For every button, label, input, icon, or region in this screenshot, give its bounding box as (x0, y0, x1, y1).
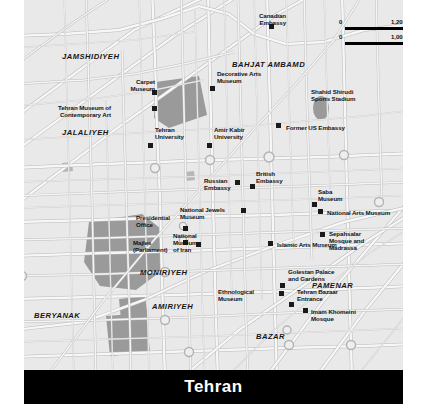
poi-label: National Museum of Iran (173, 232, 198, 254)
poi-marker[interactable] (250, 184, 255, 189)
scale-row-yards: 0 1,200 yards (339, 20, 403, 35)
poi-label: Amir Kabir University (214, 126, 245, 140)
poi-label: Canadian Embassy (200, 12, 286, 26)
poi-label: Tehran Bazaar Entrance (297, 288, 338, 302)
poi-marker[interactable] (312, 202, 317, 207)
scale-line-meters (345, 42, 403, 45)
poi-marker[interactable] (207, 143, 212, 148)
poi-label: Majles (Parliament) (133, 239, 168, 253)
poi-label: Ethnological Museum (218, 288, 254, 302)
poi-marker[interactable] (280, 283, 285, 288)
district-label: PAMENAR (312, 281, 353, 290)
poi-marker[interactable] (268, 241, 273, 246)
map-page: .rd { fill:none; stroke:#b9b9b9; stroke-… (0, 0, 429, 418)
scale-bar: 0 1,200 yards 0 1,000 meters (339, 20, 403, 54)
poi-marker[interactable] (152, 106, 157, 111)
poi-label: Former US Embassy (286, 124, 345, 131)
poi-marker[interactable] (279, 291, 284, 296)
map-labels-layer: Canadian EmbassyDecorative Arts MuseumCa… (24, 0, 403, 370)
poi-marker[interactable] (289, 302, 294, 307)
scale-zero-meters: 0 (339, 34, 342, 40)
district-label: JALALIYEH (62, 128, 109, 137)
poi-marker[interactable] (148, 143, 153, 148)
poi-label: Shahid Shirudi Sports Stadium (311, 88, 355, 102)
poi-marker[interactable] (183, 226, 188, 231)
poi-label: Decorative Arts Museum (217, 70, 261, 84)
scale-label-yards: 1,200 yards (391, 19, 403, 25)
poi-marker[interactable] (320, 232, 325, 237)
poi-label: National Arts Museum (327, 209, 390, 216)
poi-marker[interactable] (276, 123, 281, 128)
poi-label: Tehran Museum of Contemporary Art (25, 104, 111, 118)
poi-label: Presidential Office (136, 214, 170, 228)
poi-marker[interactable] (210, 86, 215, 91)
map-title-bar: Tehran (24, 370, 403, 404)
poi-label: Imam Khomeini Mosque (311, 308, 356, 322)
district-label: BERYANAK (34, 311, 80, 320)
district-label: AMIRIYEH (152, 302, 193, 311)
poi-label: British Embassy (256, 170, 282, 184)
district-label: BAHJAT AMBAMD (232, 60, 305, 69)
poi-marker[interactable] (303, 308, 308, 313)
poi-label: Islamic Arts Museum (277, 241, 337, 248)
district-label: BAZAR (256, 332, 285, 341)
poi-marker[interactable] (318, 209, 323, 214)
poi-label: Sepahsalar Mosque and Madrassa (329, 230, 364, 252)
scale-zero-yards: 0 (339, 19, 342, 25)
poi-label: Carpet Museum (69, 78, 155, 92)
scale-line-yards (345, 27, 403, 30)
map-title: Tehran (24, 370, 403, 404)
scale-label-meters: 1,000 meters (391, 34, 403, 40)
poi-marker[interactable] (235, 180, 240, 185)
district-label: JAMSHIDIYEH (62, 52, 119, 61)
district-label: MONIRIYEH (140, 268, 188, 277)
poi-label: National Jewels Museum (180, 206, 225, 220)
poi-marker[interactable] (241, 208, 246, 213)
scale-row-meters: 0 1,000 meters (339, 35, 403, 50)
poi-label: Tehran University (155, 126, 184, 140)
poi-label: Russian Embassy (204, 177, 230, 191)
map-canvas[interactable]: .rd { fill:none; stroke:#b9b9b9; stroke-… (24, 0, 403, 370)
poi-label: Saba Museum (318, 188, 343, 202)
